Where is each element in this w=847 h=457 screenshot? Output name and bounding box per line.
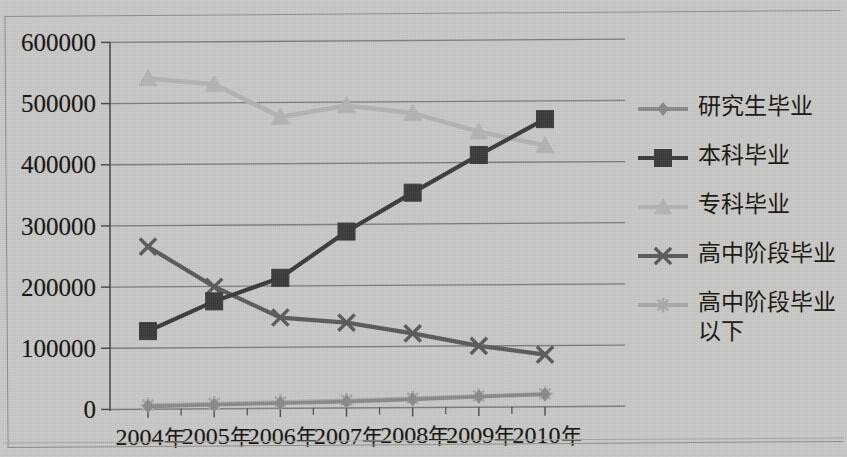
legend-label: 高中阶段毕业 以下	[698, 288, 836, 346]
legend-marker-diamond-icon	[636, 92, 690, 122]
legend-marker-x-icon	[636, 239, 690, 269]
legend-marker-triangle-icon	[636, 190, 690, 220]
legend-item-3: 专科毕业	[636, 190, 846, 224]
legend-label: 研究生毕业	[698, 92, 813, 121]
data-point-square	[272, 269, 289, 286]
legend-item-1: 研究生毕业	[636, 92, 846, 126]
data-point-square	[470, 146, 487, 163]
data-point-square	[404, 184, 421, 201]
legend-label: 专科毕业	[698, 190, 790, 219]
data-point-square	[338, 223, 355, 240]
legend-marker-star-icon	[636, 288, 690, 318]
legend-item-4: 高中阶段毕业	[636, 239, 846, 273]
series-x	[140, 239, 553, 363]
chart-legend: 研究生毕业本科毕业专科毕业高中阶段毕业高中阶段毕业 以下	[636, 92, 846, 369]
legend-item-5: 高中阶段毕业 以下	[636, 288, 846, 354]
series-triangle	[139, 70, 554, 153]
data-point-square	[537, 111, 554, 128]
data-point-square	[140, 323, 157, 340]
data-point-x	[140, 239, 156, 255]
data-point-square	[655, 150, 672, 167]
legend-label: 高中阶段毕业	[698, 239, 836, 268]
chart-screenshot: 6000005000004000003000002000001000000 20…	[0, 0, 847, 457]
data-point-star	[656, 298, 671, 313]
data-point-diamond	[658, 103, 668, 116]
axis-lines	[101, 42, 545, 418]
data-point-square	[206, 293, 223, 310]
legend-label: 本科毕业	[698, 141, 790, 170]
legend-item-2: 本科毕业	[636, 141, 846, 175]
legend-marker-square-icon	[636, 141, 690, 171]
